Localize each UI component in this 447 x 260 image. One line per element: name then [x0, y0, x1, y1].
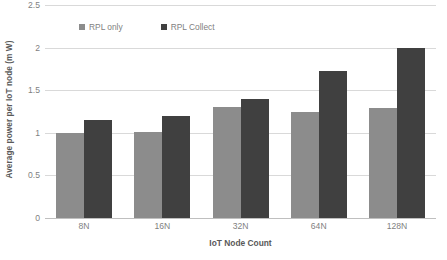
x-axis-title-label: IoT Node Count — [209, 238, 271, 248]
x-axis-tick-label: 8N — [45, 221, 123, 231]
bar[interactable] — [319, 71, 347, 218]
bar[interactable] — [162, 116, 190, 218]
legend-swatch-icon — [161, 24, 167, 30]
bar[interactable] — [56, 133, 84, 218]
y-axis-tick-label: 0 — [35, 213, 40, 223]
legend-item[interactable]: RPL only — [79, 22, 123, 32]
y-axis-tick-label: 1.5 — [28, 85, 40, 95]
y-axis-tick-label: 2 — [35, 43, 40, 53]
bar-group — [201, 5, 279, 218]
y-axis-tick-label: 1 — [35, 128, 40, 138]
bar[interactable] — [84, 120, 112, 218]
y-axis-title: Average power per IoT node (m W) — [0, 0, 18, 218]
gridline — [45, 218, 436, 219]
bar[interactable] — [369, 108, 397, 218]
y-axis-tick-labels: 00.511.522.5 — [18, 0, 44, 224]
bar[interactable] — [397, 48, 425, 218]
plot-area — [45, 5, 436, 218]
y-axis-tick-label: 2.5 — [28, 0, 40, 10]
y-axis-title-label: Average power per IoT node (m W) — [5, 40, 14, 178]
legend-item[interactable]: RPL Collect — [161, 22, 215, 32]
x-axis-tick-label: 16N — [123, 221, 201, 231]
x-axis-tick-labels: 8N16N32N64N128N — [45, 221, 436, 231]
y-axis-tick-label: 0.5 — [28, 170, 40, 180]
bar[interactable] — [134, 132, 162, 218]
legend-label: RPL Collect — [171, 22, 215, 32]
bar-group — [123, 5, 201, 218]
bar-group — [45, 5, 123, 218]
x-axis-tick-label: 64N — [280, 221, 358, 231]
x-axis-tick-label: 32N — [201, 221, 279, 231]
bar[interactable] — [213, 107, 241, 218]
legend-label: RPL only — [89, 22, 123, 32]
bar[interactable] — [291, 112, 319, 219]
x-axis-tick-label: 128N — [358, 221, 436, 231]
legend: RPL onlyRPL Collect — [45, 22, 447, 32]
bar-group — [358, 5, 436, 218]
bar-group — [280, 5, 358, 218]
bar-groups — [45, 5, 436, 218]
legend-swatch-icon — [79, 24, 85, 30]
bar-chart: Average power per IoT node (m W) 00.511.… — [0, 0, 447, 260]
bar[interactable] — [241, 99, 269, 218]
x-axis-title: IoT Node Count — [45, 238, 436, 248]
